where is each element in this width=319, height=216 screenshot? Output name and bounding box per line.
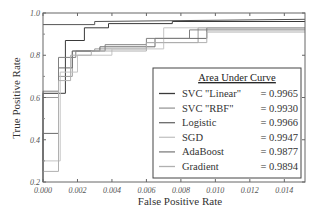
legend-entry-value: = 0.9877 [261,146,298,157]
y-tick-label: 1.0 [30,9,40,18]
legend-entry-value: = 0.9894 [261,161,299,172]
legend-entry-name: Logistic [182,117,217,128]
x-tick-label: 0.002 [68,186,86,195]
legend-entry-name: SGD [182,132,203,143]
y-tick-label: 0.4 [30,136,40,145]
x-tick-label: 0.012 [241,186,259,195]
legend-entry-name: SVC "RBF" [182,103,233,114]
x-tick-label: 0.000 [34,186,52,195]
roc-chart: 0.0000.0020.0040.0060.0080.0100.0120.014… [0,0,319,216]
y-axis-title: True Positive Rate [10,57,22,139]
legend-entry-name: SVC "Linear" [182,88,241,99]
x-tick-label: 0.010 [206,186,224,195]
y-tick-label: 0.2 [30,178,40,187]
x-tick-label: 0.004 [103,186,121,195]
legend-entry-name: AdaBoost [182,146,224,157]
legend-entry-name: Gradient [182,161,219,172]
x-tick-label: 0.008 [172,186,190,195]
legend-entry-value: = 0.9966 [261,117,298,128]
legend: Area Under Curve SVC "Linear"= 0.9965SVC… [153,68,301,178]
y-tick-label: 0.8 [30,51,40,60]
x-tick-label: 0.014 [275,186,293,195]
legend-entry-value: = 0.9947 [261,132,298,143]
legend-entry-value: = 0.9930 [261,103,298,114]
x-tick-label: 0.006 [137,186,155,195]
legend-entry-value: = 0.9965 [261,88,298,99]
y-tick-label: 0.6 [30,94,40,103]
legend-title: Area Under Curve [198,72,276,83]
x-axis-title: False Positive Rate [138,195,222,207]
